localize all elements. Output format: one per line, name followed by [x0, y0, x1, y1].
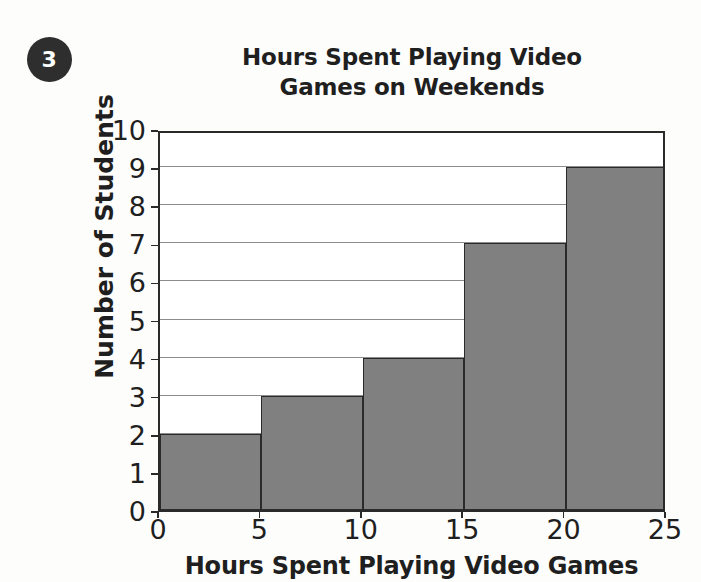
histogram-bar — [363, 358, 464, 510]
y-tick-mark — [151, 130, 158, 132]
y-tick-label: 7 — [92, 231, 146, 258]
y-tick-mark — [151, 435, 158, 437]
y-tick-label: 9 — [92, 155, 146, 182]
x-tick-label: 20 — [534, 516, 594, 543]
x-tick-label: 25 — [635, 516, 695, 543]
y-tick-mark — [151, 245, 158, 247]
y-tick-mark — [151, 168, 158, 170]
y-tick-label: 5 — [92, 308, 146, 335]
chart-title-line-2: Games on Weekends — [158, 72, 666, 102]
chart-title-line-1: Hours Spent Playing Video — [158, 42, 666, 72]
y-tick-label: 3 — [92, 384, 146, 411]
histogram-bar — [464, 243, 565, 510]
y-tick-mark — [151, 473, 158, 475]
histogram-figure: 3 Hours Spent Playing Video Games on Wee… — [0, 0, 701, 582]
question-number-badge: 3 — [27, 37, 72, 82]
histogram-bar — [261, 396, 362, 510]
y-tick-label: 2 — [92, 422, 146, 449]
y-tick-mark — [151, 397, 158, 399]
y-tick-mark — [151, 321, 158, 323]
y-tick-label: 1 — [92, 460, 146, 487]
y-tick-label: 4 — [92, 346, 146, 373]
question-number-text: 3 — [42, 49, 58, 71]
plot-area — [158, 131, 665, 512]
y-tick-label: 6 — [92, 269, 146, 296]
y-tick-mark — [151, 359, 158, 361]
x-tick-label: 15 — [432, 516, 492, 543]
x-tick-label: 0 — [128, 516, 188, 543]
histogram-bar — [566, 167, 665, 510]
x-axis-title: Hours Spent Playing Video Games — [158, 552, 665, 580]
y-tick-label: 8 — [92, 193, 146, 220]
y-tick-label: 10 — [92, 117, 146, 144]
x-tick-label: 5 — [229, 516, 289, 543]
chart-title: Hours Spent Playing Video Games on Weeke… — [158, 42, 666, 103]
x-tick-label: 10 — [331, 516, 391, 543]
histogram-bar — [160, 434, 261, 510]
y-tick-mark — [151, 206, 158, 208]
y-tick-mark — [151, 283, 158, 285]
